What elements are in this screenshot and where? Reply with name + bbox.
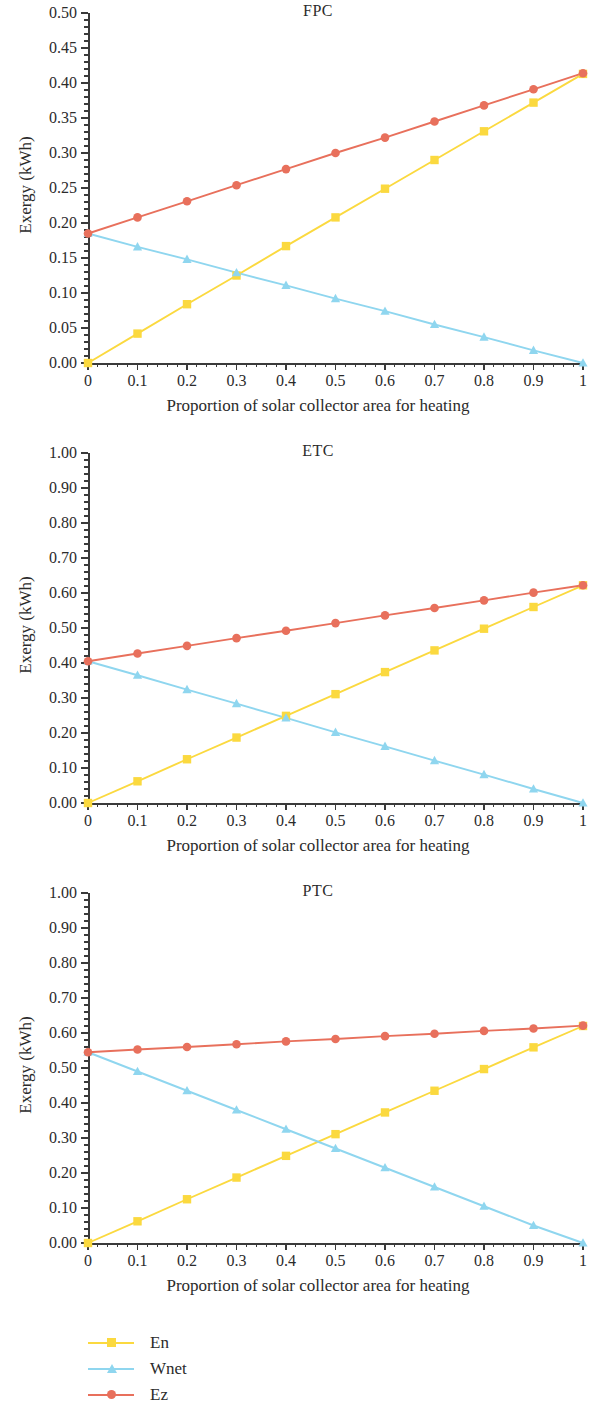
- y-tick-major: [81, 592, 88, 593]
- x-tick-minor: [543, 803, 544, 807]
- x-tick-minor: [216, 1243, 217, 1247]
- x-tick-major: [137, 363, 138, 370]
- y-tick-label: 0.35: [49, 110, 77, 126]
- legend-item-en[interactable]: En: [88, 1330, 388, 1356]
- y-tick-label: 0.20: [49, 215, 77, 231]
- y-tick-major: [81, 927, 88, 928]
- x-tick-label: 1: [579, 813, 587, 829]
- y-tick-label: 0.45: [49, 40, 77, 56]
- x-tick-minor: [107, 803, 108, 807]
- x-tick-major: [236, 363, 237, 370]
- x-tick-minor: [117, 363, 118, 367]
- x-tick-minor: [454, 363, 455, 367]
- circle-marker-icon: [579, 69, 588, 78]
- x-tick-minor: [266, 1243, 267, 1247]
- x-tick-major: [137, 803, 138, 810]
- x-tick-major: [137, 1243, 138, 1250]
- y-tick-major: [81, 892, 88, 893]
- x-tick-label: 0: [84, 1253, 92, 1269]
- square-marker-icon: [430, 156, 438, 164]
- x-tick-minor: [147, 1243, 148, 1247]
- x-tick-label: 0.7: [425, 373, 445, 389]
- x-tick-minor: [276, 363, 277, 367]
- y-tick-label: 0.15: [49, 250, 77, 266]
- x-tick-minor: [513, 803, 514, 807]
- x-tick-minor: [365, 803, 366, 807]
- circle-marker-icon: [282, 627, 291, 636]
- x-tick-minor: [315, 1243, 316, 1247]
- circle-marker-icon: [480, 596, 489, 605]
- series-layer-etc: [88, 453, 583, 803]
- circle-marker-icon: [107, 1390, 116, 1399]
- y-tick-label: 0.40: [49, 75, 77, 91]
- y-tick-label: 0.30: [49, 690, 77, 706]
- y-axis-label-etc: Exergy (kWh): [16, 525, 36, 725]
- square-marker-icon: [107, 1338, 116, 1347]
- x-tick-label: 0.1: [128, 1253, 148, 1269]
- circle-marker-icon: [381, 133, 390, 142]
- legend-item-wnet[interactable]: Wnet: [88, 1356, 388, 1382]
- y-tick-major: [81, 487, 88, 488]
- x-tick-label: 0.8: [474, 1253, 494, 1269]
- y-tick-label: 0.00: [49, 795, 77, 811]
- y-tick-label: 0.30: [49, 1130, 77, 1146]
- y-tick-label: 0.05: [49, 320, 77, 336]
- circle-marker-icon: [579, 581, 588, 590]
- x-tick-minor: [177, 803, 178, 807]
- square-marker-icon: [232, 1173, 240, 1181]
- x-tick-minor: [196, 803, 197, 807]
- y-tick-major: [81, 1102, 88, 1103]
- x-tick-major: [186, 1243, 187, 1250]
- y-tick-label: 0.25: [49, 180, 77, 196]
- circle-marker-icon: [84, 229, 93, 238]
- circle-marker-icon: [183, 1043, 192, 1052]
- series-layer-fpc: [88, 13, 583, 363]
- square-marker-icon: [480, 625, 488, 633]
- x-tick-label: 0.1: [128, 373, 148, 389]
- x-tick-minor: [305, 363, 306, 367]
- plot-area-etc: 0.000.100.200.300.400.500.600.700.800.90…: [88, 453, 583, 803]
- legend-label: Wnet: [150, 1359, 187, 1379]
- circle-marker-icon: [232, 1040, 241, 1049]
- x-tick-minor: [493, 363, 494, 367]
- circle-marker-icon: [133, 1045, 142, 1054]
- x-tick-minor: [325, 363, 326, 367]
- y-tick-label: 0.20: [49, 725, 77, 741]
- legend-label: Ez: [150, 1385, 168, 1405]
- y-tick-label: 0.90: [49, 480, 77, 496]
- y-tick-label: 0.10: [49, 1200, 77, 1216]
- y-tick-label: 0.50: [49, 1060, 77, 1076]
- x-tick-major: [434, 363, 435, 370]
- x-tick-label: 0.4: [276, 373, 296, 389]
- x-tick-minor: [117, 803, 118, 807]
- y-tick-label: 0.60: [49, 585, 77, 601]
- chart-panel-fpc: FPC Exergy (kWh) 0.000.050.100.150.200.2…: [0, 0, 592, 430]
- x-tick-major: [335, 363, 336, 370]
- x-tick-minor: [444, 363, 445, 367]
- x-tick-minor: [315, 803, 316, 807]
- x-tick-minor: [573, 1243, 574, 1247]
- y-tick-label: 0.10: [49, 285, 77, 301]
- y-tick-major: [81, 1172, 88, 1173]
- square-marker-icon: [529, 1043, 537, 1051]
- y-tick-major: [81, 1137, 88, 1138]
- x-tick-minor: [454, 803, 455, 807]
- x-tick-minor: [305, 803, 306, 807]
- square-marker-icon: [480, 1065, 488, 1073]
- x-tick-minor: [206, 803, 207, 807]
- y-tick-major: [81, 327, 88, 328]
- legend-item-ez[interactable]: Ez: [88, 1382, 388, 1408]
- chart-panel-etc: ETC Exergy (kWh) 0.000.100.200.300.400.5…: [0, 440, 592, 870]
- x-tick-minor: [266, 803, 267, 807]
- square-marker-icon: [381, 668, 389, 676]
- square-marker-icon: [133, 777, 141, 785]
- x-tick-minor: [553, 363, 554, 367]
- x-tick-minor: [493, 1243, 494, 1247]
- x-tick-minor: [573, 363, 574, 367]
- y-tick-label: 1.00: [49, 445, 77, 461]
- y-tick-label: 0.70: [49, 550, 77, 566]
- x-tick-minor: [216, 803, 217, 807]
- legend-key-ez: [88, 1388, 134, 1402]
- x-tick-major: [533, 1243, 534, 1250]
- x-tick-major: [285, 803, 286, 810]
